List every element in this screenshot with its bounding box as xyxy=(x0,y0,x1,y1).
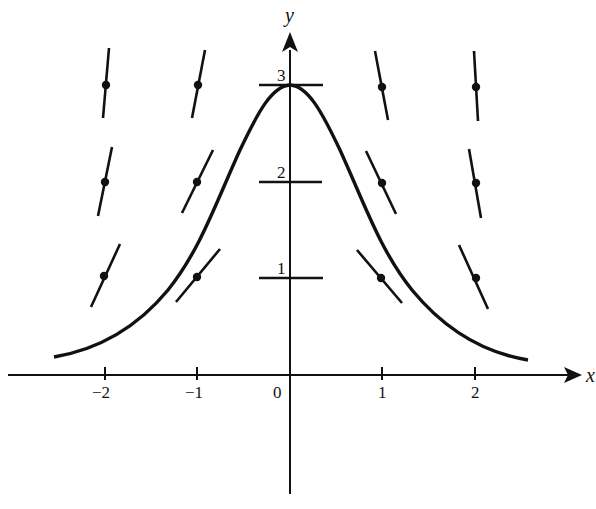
x-ticks: −2 −1 0 1 2 xyxy=(92,367,480,402)
slope-segment xyxy=(182,150,213,213)
y-axis-label: y xyxy=(283,4,294,27)
x-axis-label: x xyxy=(585,364,595,386)
y-tick-label: 2 xyxy=(277,163,286,182)
slope-segment xyxy=(472,51,480,121)
slope-segment xyxy=(469,149,481,218)
slope-segment xyxy=(176,249,220,302)
slope-field-diagram: x y −2 −1 0 1 2 1 2 3 xyxy=(0,0,596,509)
slope-segment xyxy=(366,151,396,214)
x-tick-label: 2 xyxy=(471,383,480,402)
y-axis-arrow-icon xyxy=(282,32,298,52)
slope-segment xyxy=(459,245,488,309)
x-tick-label: 0 xyxy=(273,383,282,402)
x-tick-label: −1 xyxy=(185,383,203,402)
slope-segment xyxy=(375,51,388,120)
x-tick-label: −2 xyxy=(92,383,110,402)
slope-segment xyxy=(102,48,110,118)
x-tick-label: 1 xyxy=(378,383,387,402)
slope-segment xyxy=(91,244,120,307)
y-tick-label: 1 xyxy=(277,259,286,278)
slope-segment xyxy=(98,147,112,216)
y-tick-label: 3 xyxy=(277,66,286,85)
slope-segment xyxy=(357,250,402,303)
slope-segment xyxy=(192,50,205,118)
